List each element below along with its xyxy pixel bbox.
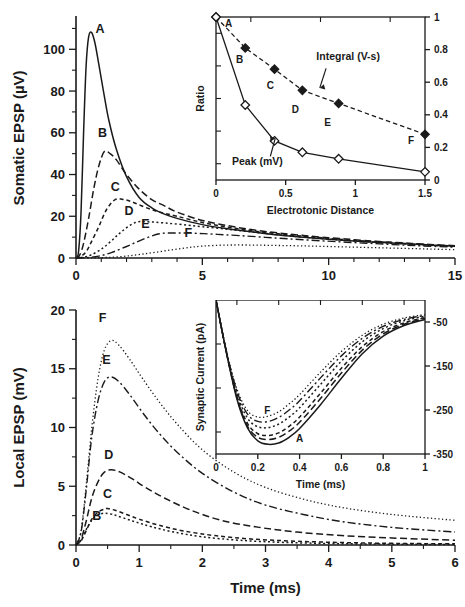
inset-x-ticklabel: 0 xyxy=(213,462,219,473)
curve-label-somatic-B: B xyxy=(98,126,107,140)
x-axis-title-time: Time (ms) xyxy=(230,579,301,596)
x-ticklabel: 0 xyxy=(72,268,79,283)
inset-y-ticklabel: -150 xyxy=(433,361,453,372)
inset-synaptic-current-plot: -350-250-150-5000.20.40.60.81FASynaptic … xyxy=(194,300,453,490)
figure-root: 020406080100051015ABCDEFSomatic EPSP (µV… xyxy=(0,0,465,607)
inset-point-label-C: C xyxy=(267,80,274,91)
curve-somatic-F xyxy=(76,245,455,258)
y-ticklabel: 20 xyxy=(51,209,65,224)
inset-x-ticklabel: 1 xyxy=(422,462,428,473)
inset-y-ticklabel: 0.2 xyxy=(434,142,448,153)
curve-label-local-B: B xyxy=(92,509,101,523)
x-ticklabel: 0 xyxy=(72,555,79,570)
panel-somatic-epsp: 020406080100051015ABCDEFSomatic EPSP (µV… xyxy=(0,0,465,300)
inset-point-label-F: F xyxy=(264,405,270,416)
inset-point-label-E: E xyxy=(324,117,331,128)
y-ticklabel: 20 xyxy=(51,303,65,318)
inset-point-label-A: A xyxy=(225,18,232,29)
curve-local-D xyxy=(76,470,455,545)
y-ticklabel: 40 xyxy=(51,167,65,182)
inset-y-ticklabel: 0.4 xyxy=(434,109,448,120)
inset-y-ticklabel: -250 xyxy=(433,405,453,416)
inset-y-axis-title-ratio: Ratio xyxy=(194,85,206,111)
x-ticklabel: 5 xyxy=(199,268,206,283)
y-axis-title-local: Local EPSP (mV) xyxy=(10,367,27,488)
y-ticklabel: 100 xyxy=(43,42,65,57)
inset-point-label-F: F xyxy=(408,135,414,146)
curve-local-C xyxy=(76,508,455,545)
inset-point-label-B: B xyxy=(236,54,243,65)
curve-label-local-F: F xyxy=(99,311,107,325)
inset-x-ticklabel: 0.4 xyxy=(293,462,307,473)
curve-label-somatic-F: F xyxy=(185,226,193,240)
y-ticklabel: 15 xyxy=(51,361,65,376)
inset-point-label-D: D xyxy=(292,104,299,115)
inset-x-axis-title-distance: Electrotonic Distance xyxy=(267,204,375,216)
inset-x-ticklabel: 0.2 xyxy=(251,462,265,473)
inset-y-ticklabel: 0.6 xyxy=(434,77,448,88)
panel-local-epsp: 051015200123456FEDCBLocal EPSP (mV)Time … xyxy=(0,300,465,607)
inset-y-axis-title-current: Synaptic Current (pA) xyxy=(194,323,206,432)
y-ticklabel: 80 xyxy=(51,84,65,99)
inset-annotation-peak: Peak (mV) xyxy=(232,155,283,167)
inset-y-ticklabel: 0 xyxy=(434,175,440,186)
x-ticklabel: 4 xyxy=(325,555,333,570)
inset-y-ticklabel: -50 xyxy=(433,317,448,328)
inset-x-ticklabel: 0.6 xyxy=(334,462,348,473)
curve-label-local-C: C xyxy=(103,487,112,501)
inset-annotation-integral: Integral (V-s) xyxy=(316,50,380,62)
y-ticklabel: 0 xyxy=(58,538,65,553)
x-ticklabel: 1 xyxy=(136,555,143,570)
inset-ratio-plot: 00.20.40.60.8100.511.5ABCDEFIntegral (V-… xyxy=(194,12,448,216)
curve-label-somatic-D: D xyxy=(125,204,134,218)
inset-x-ticklabel: 0 xyxy=(213,188,219,199)
x-ticklabel: 10 xyxy=(321,268,335,283)
y-ticklabel: 60 xyxy=(51,125,65,140)
x-ticklabel: 3 xyxy=(262,555,269,570)
inset-x-ticklabel: 0.8 xyxy=(376,462,390,473)
x-ticklabel: 5 xyxy=(388,555,395,570)
curve-label-somatic-A: A xyxy=(95,22,104,36)
curve-somatic-D xyxy=(76,222,455,258)
curve-label-local-E: E xyxy=(102,353,110,367)
y-ticklabel: 5 xyxy=(58,479,65,494)
inset-x-axis-title-time: Time (ms) xyxy=(296,478,345,490)
inset-x-ticklabel: 0.5 xyxy=(279,188,293,199)
x-ticklabel: 6 xyxy=(451,555,458,570)
curve-label-somatic-E: E xyxy=(141,217,149,231)
inset-y-ticklabel: 0.8 xyxy=(434,44,448,55)
inset-y-ticklabel: 1 xyxy=(434,12,440,23)
inset-point-label-A: A xyxy=(296,433,303,444)
y-ticklabel: 10 xyxy=(51,420,65,435)
inset-x-ticklabel: 1 xyxy=(353,188,359,199)
curve-somatic-E xyxy=(76,233,455,258)
curve-label-local-D: D xyxy=(104,448,113,462)
curve-label-somatic-C: C xyxy=(111,180,120,194)
x-ticklabel: 2 xyxy=(199,555,206,570)
inset-y-ticklabel: -350 xyxy=(433,449,453,460)
x-ticklabel: 15 xyxy=(448,268,462,283)
inset-x-ticklabel: 1.5 xyxy=(418,188,432,199)
y-ticklabel: 0 xyxy=(58,251,65,266)
y-axis-title-somatic: Somatic EPSP (µV) xyxy=(10,70,27,205)
